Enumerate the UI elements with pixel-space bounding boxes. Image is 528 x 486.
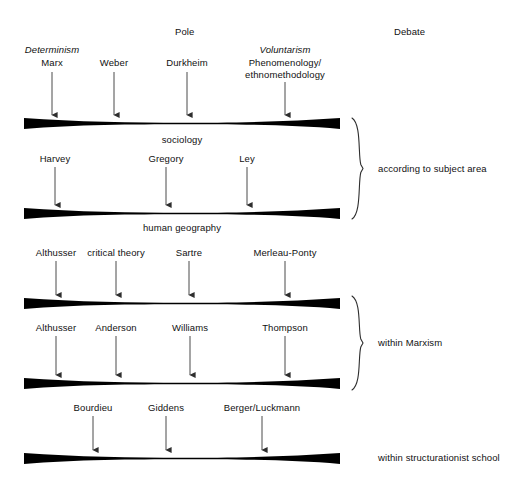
brace-1 [352,296,363,390]
input-label-bar-marxism-lower-1: Anderson [95,322,136,334]
brace-0 [352,118,363,219]
input-label-bar-sociology-2: Durkheim [166,57,207,69]
brace-label-1: within Marxism [378,337,442,349]
input-label-bar-marxism-upper-1: critical theory [87,247,144,259]
bar-caption-bar-human-geography: human geography [143,222,221,234]
input-label-bar-marxism-upper-0: Althusser [36,247,77,259]
arrows-layer [52,72,285,450]
input-label-bar-human-geography-0: Harvey [40,153,71,165]
diagram-canvas: sociologyMarxWeberDurkheimPhenomenology/… [0,0,528,486]
input-label-bar-marxism-lower-2: Williams [172,322,208,334]
bar-structurationist [24,453,340,464]
input-label-bar-sociology-3: Phenomenology/ethnomethodology [245,57,325,80]
standalone-label-0: within structurationist school [378,452,500,464]
input-label-bar-human-geography-2: Ley [239,153,255,165]
input-label-bar-marxism-upper-3: Merleau-Ponty [253,247,316,259]
bar-marxism-upper [24,298,340,309]
column-header-pole: Pole [175,26,194,38]
pole-label-voluntarism: Voluntarism [260,44,311,56]
input-label-bar-structurationist-2: Berger/Luckmann [224,402,300,414]
input-label-bar-marxism-lower-0: Althusser [36,322,77,334]
braces-layer [352,118,363,390]
input-label-bar-human-geography-1: Gregory [148,153,183,165]
column-header-debate: Debate [394,26,425,38]
bar-caption-bar-sociology: sociology [162,134,203,146]
pole-label-determinism: Determinism [25,44,79,56]
bar-human-geography [24,208,340,219]
input-label-bar-sociology-1: Weber [100,57,128,69]
input-label-bar-marxism-upper-2: Sartre [176,247,202,259]
input-label-bar-sociology-0: Marx [41,57,63,69]
input-label-bar-structurationist-0: Bourdieu [74,402,113,414]
bar-marxism-lower [24,378,340,389]
bar-sociology [24,118,340,129]
input-label-bar-marxism-lower-3: Thompson [262,322,308,334]
brace-label-0: according to subject area [378,163,487,175]
input-label-bar-structurationist-1: Giddens [148,402,184,414]
